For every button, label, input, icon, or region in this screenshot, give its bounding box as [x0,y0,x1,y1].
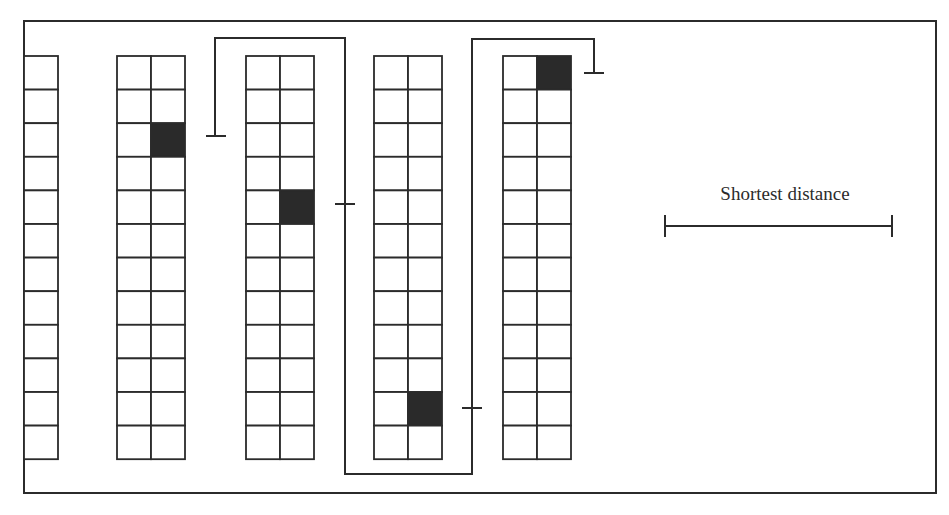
storage-cell [503,157,537,191]
storage-cell [374,325,408,359]
rack-group [24,56,571,459]
storage-cell [117,190,151,224]
storage-cell [246,392,280,426]
storage-cell [151,392,185,426]
storage-cell [24,90,58,124]
storage-cell [280,90,314,124]
warehouse-diagram: Shortest distance [0,0,949,515]
storage-cell [503,123,537,157]
storage-cell [151,426,185,460]
picked-storage-cell [280,190,314,224]
storage-cell [374,224,408,258]
storage-cell [374,291,408,325]
storage-cell [24,325,58,359]
storage-cell [408,358,442,392]
storage-cell [537,123,571,157]
storage-cell [246,291,280,325]
storage-cell [151,258,185,292]
storage-cell [374,358,408,392]
storage-cell [537,358,571,392]
storage-cell [280,123,314,157]
storage-cell [246,56,280,90]
storage-cell [537,291,571,325]
storage-cell [374,56,408,90]
storage-cell [280,358,314,392]
storage-cell [151,190,185,224]
storage-cell [503,392,537,426]
storage-cell [117,358,151,392]
storage-cell [537,224,571,258]
storage-cell [374,426,408,460]
storage-cell [151,325,185,359]
storage-cell [246,157,280,191]
storage-cell [374,90,408,124]
storage-cell [537,325,571,359]
storage-cell [151,157,185,191]
rack-5 [503,56,571,459]
storage-cell [537,190,571,224]
storage-cell [246,325,280,359]
storage-cell [151,358,185,392]
storage-cell [246,426,280,460]
storage-cell [280,325,314,359]
storage-cell [246,358,280,392]
picked-storage-cell [408,392,442,426]
storage-cell [537,258,571,292]
storage-cell [537,426,571,460]
storage-cell [24,392,58,426]
shortest-distance-scale-bar [665,215,892,237]
storage-cell [280,291,314,325]
storage-cell [408,258,442,292]
storage-cell [117,426,151,460]
storage-cell [537,90,571,124]
storage-cell [24,123,58,157]
storage-cell [246,190,280,224]
storage-cell [24,157,58,191]
storage-cell [280,56,314,90]
storage-cell [24,358,58,392]
storage-cell [280,258,314,292]
picked-storage-cell [537,56,571,90]
storage-cell [503,291,537,325]
storage-cell [280,392,314,426]
storage-cell [117,291,151,325]
storage-cell [408,291,442,325]
storage-cell [246,90,280,124]
storage-cell [117,56,151,90]
storage-cell [408,426,442,460]
storage-cell [151,56,185,90]
rack-2 [117,56,185,459]
storage-cell [408,90,442,124]
storage-cell [151,291,185,325]
storage-cell [117,325,151,359]
storage-cell [374,258,408,292]
rack-1 [24,56,58,459]
rack-4 [374,56,442,459]
storage-cell [503,325,537,359]
storage-cell [537,392,571,426]
storage-cell [280,426,314,460]
storage-cell [503,426,537,460]
storage-cell [24,56,58,90]
storage-cell [374,190,408,224]
storage-cell [117,123,151,157]
storage-cell [24,224,58,258]
storage-cell [24,190,58,224]
storage-cell [246,123,280,157]
storage-cell [117,258,151,292]
legend-label: Shortest distance [665,183,905,205]
picked-storage-cell [151,123,185,157]
storage-cell [246,258,280,292]
storage-cell [408,224,442,258]
storage-cell [503,90,537,124]
storage-cell [408,123,442,157]
storage-cell [151,90,185,124]
storage-cell [503,258,537,292]
storage-cell [246,224,280,258]
storage-cell [408,56,442,90]
storage-cell [503,224,537,258]
storage-cell [117,157,151,191]
storage-cell [374,123,408,157]
storage-cell [24,426,58,460]
storage-cell [151,224,185,258]
